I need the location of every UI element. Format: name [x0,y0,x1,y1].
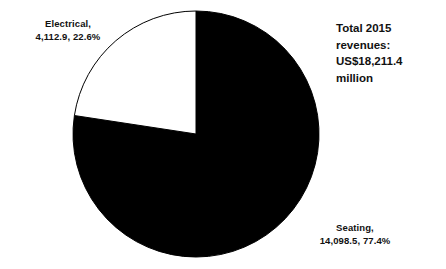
slice-label-seating-value: 14,098.5, 77.4% [292,235,418,248]
total-revenues-annotation: Total 2015 revenues: US$18,211.4 million [336,20,440,86]
pie-chart-figure: Electrical, 4,112.9, 22.6% Seating, 14,0… [0,0,446,269]
total-annotation-line-3: US$18,211.4 [336,53,440,70]
total-annotation-line-2: revenues: [336,37,440,54]
slice-label-electrical: Electrical, 4,112.9, 22.6% [12,18,124,43]
slice-label-electrical-name: Electrical, [12,18,124,31]
total-annotation-line-4: million [336,70,440,87]
slice-label-electrical-value: 4,112.9, 22.6% [12,31,124,44]
slice-label-seating-name: Seating, [292,222,418,235]
slice-label-seating: Seating, 14,098.5, 77.4% [292,222,418,247]
total-annotation-line-1: Total 2015 [336,20,440,37]
